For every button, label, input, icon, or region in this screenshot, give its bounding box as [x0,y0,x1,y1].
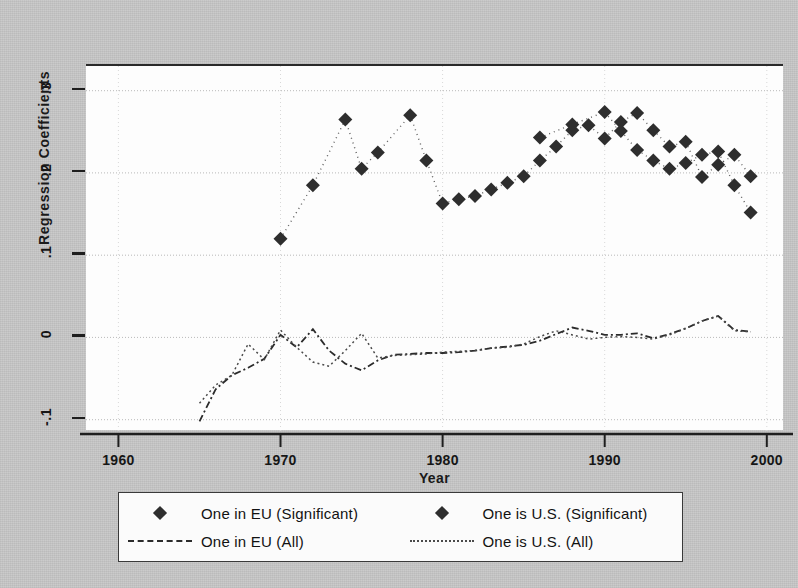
data-point-marker [484,182,498,196]
x-axis-tick-label: 2000 [732,452,798,468]
line-series-group [200,112,751,421]
legend-item-eu-significant: One in EU (Significant) [119,499,401,527]
data-point-marker [630,143,644,157]
data-point-marker [744,205,758,219]
series-line [200,316,751,403]
data-point-marker [274,232,288,246]
dashed-line-icon [119,540,201,542]
data-point-marker [533,131,547,145]
data-point-marker [355,162,369,176]
data-point-marker [452,192,466,206]
legend-label: One in EU (All) [201,533,304,550]
data-point-marker [468,189,482,203]
data-point-marker [517,169,531,183]
legend-item-us-all: One is U.S. (All) [401,527,683,555]
regression-coefficients-figure: Regression Coefficients -.10.1.2.3 19601… [0,0,798,588]
x-axis-tick-label: 1960 [83,452,153,468]
data-point-marker [727,178,741,192]
legend-label: One in EU (Significant) [201,505,358,522]
data-point-marker [371,145,385,159]
y-axis-tick-label: 0 [38,316,54,352]
data-point-marker [711,158,725,172]
y-axis-tick-mark [72,334,85,337]
x-axis-tick-label: 1970 [246,452,316,468]
data-point-marker [663,140,677,154]
series-line [200,316,751,421]
legend-label: One is U.S. (Significant) [483,505,648,522]
series-connector-line [281,113,751,239]
data-point-marker [646,123,660,137]
data-point-marker [614,124,628,138]
data-point-marker [663,162,677,176]
y-axis-tick-mark [72,170,85,173]
data-point-marker [727,148,741,162]
gridlines [86,66,783,432]
data-point-marker [679,156,693,170]
data-point-marker [403,108,417,122]
data-point-marker [500,176,514,190]
plot-canvas [86,66,783,432]
data-point-marker [436,196,450,210]
data-point-marker [646,154,660,168]
fine-dashed-line-icon [401,540,483,542]
legend-column-left: One in EU (Significant) One in EU (All) [119,493,401,561]
y-axis-tick-mark [72,88,85,91]
y-axis-tick-label: .3 [38,70,54,106]
x-axis-tick-label: 1980 [408,452,478,468]
legend-label: One is U.S. (All) [483,533,594,550]
data-point-marker [679,135,693,149]
y-axis-tick-mark [72,252,85,255]
legend-item-us-significant: One is U.S. (Significant) [401,499,683,527]
data-point-marker [582,118,596,132]
y-axis-tick-mark [72,417,85,420]
legend-item-eu-all: One in EU (All) [119,527,401,555]
data-point-marker [598,131,612,145]
diamond-marker-icon [401,508,483,518]
data-point-marker [630,106,644,120]
y-axis-tick-label: .1 [38,234,54,270]
data-point-marker [338,113,352,127]
plot-area [86,64,783,430]
x-axis-tick-label: 1990 [570,452,640,468]
legend-column-right: One is U.S. (Significant) One is U.S. (A… [401,493,683,561]
data-point-marker [711,145,725,159]
x-axis-title: Year [86,470,783,486]
data-point-marker [695,148,709,162]
y-axis-tick-label: .2 [38,152,54,188]
data-point-marker [695,170,709,184]
diamond-marker-icon [119,508,201,518]
marker-series-group [274,105,758,246]
data-point-marker [306,178,320,192]
data-point-marker [419,154,433,168]
data-point-marker [598,105,612,119]
chart-legend: One in EU (Significant) One in EU (All) … [118,492,683,562]
data-point-marker [744,169,758,183]
